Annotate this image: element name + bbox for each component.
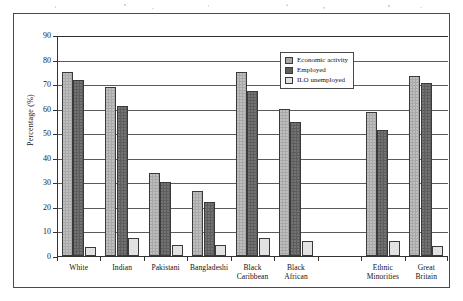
y-axis-tick	[53, 110, 58, 111]
x-axis-tick	[405, 257, 406, 261]
bar-employed	[290, 122, 301, 256]
legend-item-label: ILO unemployed	[297, 77, 345, 84]
bar-group	[192, 35, 226, 256]
y-axis-tick	[53, 61, 58, 62]
x-axis-tick	[318, 257, 319, 261]
bar-employed	[73, 80, 84, 256]
bar-employed	[247, 91, 258, 256]
x-axis-category-label: Pakistani	[151, 264, 179, 273]
bar-ilo-unemployed	[85, 247, 96, 256]
y-axis-tick-label: 40	[43, 155, 51, 163]
bar-group	[236, 35, 270, 256]
y-axis-tick-label: 50	[43, 130, 51, 138]
x-axis-tick	[187, 257, 188, 261]
x-axis-tick	[274, 257, 275, 261]
x-axis-line	[57, 256, 448, 257]
plot-area: 0102030405060708090 WhiteIndianPakistani…	[57, 36, 448, 257]
y-axis-tick-label: 10	[43, 228, 51, 236]
bar-employed	[117, 106, 128, 256]
x-axis-category-label: Black Caribbean	[237, 264, 269, 281]
bar-ilo-unemployed	[432, 246, 443, 256]
bar-economic-activity	[62, 72, 73, 256]
bar-economic-activity	[409, 76, 420, 256]
x-axis-tick	[57, 257, 58, 261]
x-axis-category-label: Ethnic Minorities	[367, 264, 399, 281]
chart-frame: Percentage (%) 0102030405060708090 White…	[13, 13, 450, 288]
y-axis-tick	[53, 85, 58, 86]
y-axis-tick	[53, 36, 58, 37]
bar-employed	[160, 182, 171, 256]
y-axis-tick	[53, 183, 58, 184]
scan-noise-band	[0, 0, 463, 12]
x-axis-category-label: Indian	[112, 264, 132, 273]
bar-ilo-unemployed	[172, 245, 183, 256]
x-axis-tick	[447, 257, 448, 261]
legend-item: Economic activity	[285, 56, 348, 65]
x-axis-tick	[361, 257, 362, 261]
bar-economic-activity	[236, 72, 247, 256]
bar-group	[149, 35, 183, 256]
legend-item-label: Employed	[297, 67, 326, 74]
x-axis-tick	[100, 257, 101, 261]
bar-employed	[421, 83, 432, 256]
y-axis-tick	[53, 232, 58, 233]
bar-group	[62, 35, 96, 256]
bar-group	[366, 35, 400, 256]
x-axis-category-label: Bangladeshi	[190, 264, 228, 273]
chart-legend: Economic activityEmployedILO unemployed	[280, 52, 354, 89]
y-axis-tick	[53, 159, 58, 160]
x-axis-category-label: Black African	[284, 264, 308, 281]
legend-item: Employed	[285, 66, 348, 75]
bar-ilo-unemployed	[215, 245, 226, 256]
y-axis-tick-label: 80	[43, 57, 51, 65]
x-axis-category-label: Great Britain	[416, 264, 438, 281]
legend-swatch-icon	[285, 77, 293, 84]
y-axis-tick-label: 60	[43, 106, 51, 114]
y-axis-tick-label: 0	[47, 253, 51, 261]
y-axis-tick-label: 70	[43, 81, 51, 89]
bar-ilo-unemployed	[389, 241, 400, 256]
legend-item: ILO unemployed	[285, 76, 348, 85]
bar-ilo-unemployed	[128, 238, 139, 256]
bar-group	[105, 35, 139, 256]
bar-economic-activity	[279, 109, 290, 256]
x-axis-category-label: White	[69, 264, 88, 273]
bar-group	[409, 35, 443, 256]
bar-ilo-unemployed	[302, 241, 313, 256]
bar-economic-activity	[192, 191, 203, 256]
y-axis-tick-label: 20	[43, 204, 51, 212]
y-axis-line	[57, 36, 58, 257]
bar-economic-activity	[149, 173, 160, 256]
bar-economic-activity	[366, 112, 377, 256]
x-axis-tick	[231, 257, 232, 261]
bar-employed	[204, 202, 215, 256]
bar-ilo-unemployed	[259, 238, 270, 256]
bar-economic-activity	[105, 87, 116, 256]
y-axis-tick-label: 90	[43, 32, 51, 40]
bar-employed	[377, 130, 388, 256]
y-axis-tick-label: 30	[43, 179, 51, 187]
y-axis-title: Percentage (%)	[26, 94, 35, 146]
x-axis-tick	[144, 257, 145, 261]
y-axis-tick	[53, 208, 58, 209]
legend-item-label: Economic activity	[297, 57, 348, 64]
legend-swatch-icon	[285, 57, 293, 64]
legend-swatch-icon	[285, 67, 293, 74]
y-axis-tick	[53, 134, 58, 135]
